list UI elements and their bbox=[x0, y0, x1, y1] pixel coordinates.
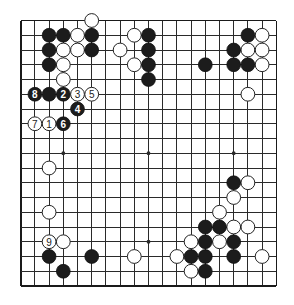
star-point bbox=[232, 151, 236, 155]
move-number-label: 7 bbox=[32, 119, 38, 130]
white-stone bbox=[213, 235, 227, 249]
black-stone bbox=[42, 28, 56, 42]
black-stone bbox=[42, 250, 56, 264]
go-board: 123456789 bbox=[0, 0, 294, 305]
black-stone bbox=[85, 250, 99, 264]
black-stone bbox=[213, 220, 227, 234]
white-stone bbox=[56, 43, 70, 57]
black-stone bbox=[198, 58, 212, 72]
black-stone bbox=[85, 28, 99, 42]
move-number-label: 4 bbox=[75, 104, 81, 115]
white-stone bbox=[184, 264, 198, 278]
black-stone bbox=[42, 87, 56, 101]
star-point bbox=[147, 151, 151, 155]
white-stone bbox=[71, 43, 85, 57]
white-stone bbox=[255, 58, 269, 72]
white-stone bbox=[85, 14, 99, 28]
white-stone bbox=[127, 58, 141, 72]
white-stone bbox=[184, 235, 198, 249]
black-stone bbox=[56, 28, 70, 42]
move-number-label: 1 bbox=[46, 119, 52, 130]
move-9-white-stone: 9 bbox=[42, 235, 56, 249]
move-number-label: 6 bbox=[61, 119, 67, 130]
stones-layer bbox=[42, 14, 269, 279]
white-stone bbox=[56, 73, 70, 87]
black-stone bbox=[142, 73, 156, 87]
black-stone bbox=[142, 28, 156, 42]
white-stone bbox=[241, 220, 255, 234]
black-stone bbox=[241, 58, 255, 72]
black-stone bbox=[198, 235, 212, 249]
black-stone bbox=[227, 58, 241, 72]
white-stone bbox=[42, 205, 56, 219]
move-number-label: 9 bbox=[46, 237, 52, 248]
black-stone bbox=[198, 264, 212, 278]
black-stone bbox=[227, 250, 241, 264]
move-5-white-stone: 5 bbox=[85, 87, 99, 101]
white-stone bbox=[42, 161, 56, 175]
black-stone bbox=[227, 176, 241, 190]
move-number-label: 8 bbox=[32, 89, 38, 100]
black-stone bbox=[227, 235, 241, 249]
white-stone bbox=[255, 43, 269, 57]
black-stone bbox=[142, 58, 156, 72]
white-stone bbox=[71, 28, 85, 42]
move-number-label: 2 bbox=[61, 89, 67, 100]
move-2-black-stone: 2 bbox=[56, 87, 70, 101]
star-point bbox=[147, 240, 151, 244]
white-stone bbox=[241, 43, 255, 57]
white-stone bbox=[241, 87, 255, 101]
black-stone bbox=[184, 250, 198, 264]
black-stone bbox=[142, 43, 156, 57]
black-stone bbox=[42, 58, 56, 72]
move-number-label: 5 bbox=[89, 89, 95, 100]
white-stone bbox=[56, 58, 70, 72]
white-stone bbox=[255, 250, 269, 264]
white-stone bbox=[170, 250, 184, 264]
black-stone bbox=[42, 43, 56, 57]
black-stone bbox=[227, 43, 241, 57]
white-stone bbox=[127, 28, 141, 42]
white-stone bbox=[227, 191, 241, 205]
move-7-white-stone: 7 bbox=[28, 117, 42, 131]
black-stone bbox=[241, 28, 255, 42]
move-1-white-stone: 1 bbox=[42, 117, 56, 131]
move-3-white-stone: 3 bbox=[71, 87, 85, 101]
move-6-black-stone: 6 bbox=[56, 117, 70, 131]
white-stone bbox=[241, 176, 255, 190]
black-stone bbox=[198, 250, 212, 264]
move-number-label: 3 bbox=[75, 89, 81, 100]
move-8-black-stone: 8 bbox=[28, 87, 42, 101]
white-stone bbox=[113, 43, 127, 57]
white-stone bbox=[227, 220, 241, 234]
white-stone bbox=[127, 250, 141, 264]
black-stone bbox=[198, 220, 212, 234]
white-stone bbox=[255, 28, 269, 42]
white-stone bbox=[213, 205, 227, 219]
go-board-diagram: 123456789 bbox=[0, 0, 294, 305]
move-4-black-stone: 4 bbox=[71, 102, 85, 116]
star-point bbox=[61, 151, 65, 155]
black-stone bbox=[85, 43, 99, 57]
white-stone bbox=[56, 235, 70, 249]
black-stone bbox=[56, 264, 70, 278]
